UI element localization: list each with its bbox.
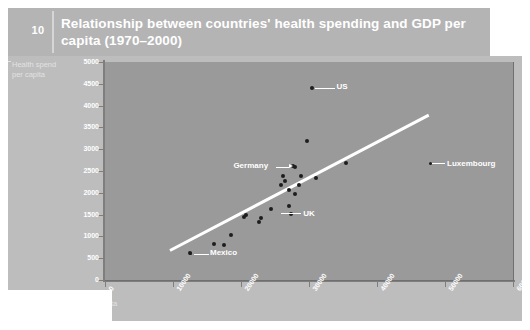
y-tick-label: 3000 — [59, 145, 99, 152]
x-tick — [513, 281, 514, 287]
annotation-mexico-leader — [194, 254, 209, 255]
card-edge-left — [0, 0, 8, 330]
data-point — [293, 165, 297, 169]
y-tick-label: 0 — [59, 276, 99, 283]
x-tick — [105, 281, 106, 287]
data-point — [297, 183, 301, 187]
card-edge-right — [522, 0, 530, 330]
y-tick-label: 5000 — [59, 58, 99, 65]
scatter-plot-area: US Germany UK Mexico 0500100015002000250… — [105, 62, 514, 281]
data-point — [283, 179, 287, 183]
data-point — [344, 161, 348, 165]
page-title: Relationship between countries' health s… — [61, 15, 481, 49]
y-tick-label: 500 — [59, 254, 99, 261]
data-point — [257, 220, 261, 224]
data-point — [281, 174, 285, 178]
annotation-mexico: Mexico — [210, 248, 237, 257]
data-point — [305, 139, 309, 143]
x-tick — [445, 281, 446, 287]
data-point — [279, 183, 283, 187]
card-edge-bottom — [0, 321, 530, 330]
annotation-luxembourg-leader — [432, 163, 445, 164]
data-point — [299, 174, 303, 178]
y-tick-label: 4500 — [59, 80, 99, 87]
y-axis-title-line1: Health spend — [12, 60, 56, 69]
data-point — [293, 192, 297, 196]
annotation-luxembourg: Luxembourg — [447, 159, 495, 168]
x-tick — [241, 281, 242, 287]
data-point — [222, 243, 226, 247]
y-tick-label: 1000 — [59, 232, 99, 239]
x-tick — [377, 281, 378, 287]
y-tick-label: 4000 — [59, 102, 99, 109]
x-tick — [309, 281, 310, 287]
annotation-luxembourg-dot — [429, 162, 432, 165]
data-point — [244, 213, 248, 217]
title-divider — [52, 11, 54, 53]
data-point — [269, 207, 273, 211]
annotation-us: US — [336, 82, 347, 91]
data-point — [212, 242, 216, 246]
annotation-germany: Germany — [233, 161, 268, 170]
y-tick-label: 2000 — [59, 189, 99, 196]
annotation-mexico-dot — [189, 252, 192, 255]
y-axis-title-line2: per capita — [12, 70, 45, 79]
annotation-uk: UK — [303, 209, 315, 218]
slide: 10 Relationship between countries' healt… — [0, 0, 530, 330]
annotation-germany-arrow-icon — [289, 164, 293, 168]
data-point — [229, 233, 233, 237]
annotation-germany-leader — [276, 167, 289, 168]
y-tick-label: 2500 — [59, 167, 99, 174]
data-point — [287, 204, 291, 208]
data-point — [287, 188, 291, 192]
y-tick-label: 3500 — [59, 123, 99, 130]
y-tick-label: 1500 — [59, 211, 99, 218]
annotation-uk-leader — [281, 213, 301, 214]
annotation-us-leader — [315, 88, 335, 89]
x-tick — [173, 281, 174, 287]
data-point — [314, 176, 318, 180]
data-point — [310, 86, 314, 90]
data-point — [259, 216, 263, 220]
